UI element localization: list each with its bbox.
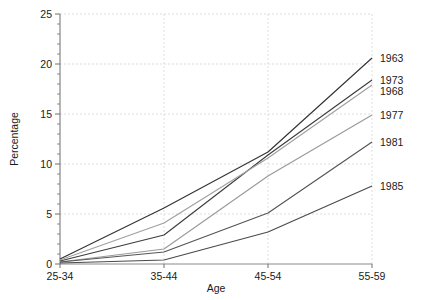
line-chart: 0510152025 Percentage 25-3435-4445-5455-… (0, 0, 429, 300)
y-tick-label: 15 (40, 108, 52, 120)
y-axis-tick-labels: 0510152025 (40, 8, 52, 270)
y-axis: 0510152025 Percentage (8, 8, 60, 270)
series-label-1985: 1985 (380, 180, 404, 192)
series-line-1977 (60, 115, 372, 262)
x-axis-ticks (60, 264, 372, 268)
x-tick-label: 45-54 (255, 270, 282, 282)
y-axis-major-ticks (55, 14, 60, 264)
x-axis-tick-labels: 25-3435-4445-5455-59 (47, 270, 386, 282)
x-tick-label: 35-44 (151, 270, 178, 282)
y-tick-label: 20 (40, 58, 52, 70)
series-label-1963: 1963 (380, 52, 404, 64)
x-tick-label: 55-59 (359, 270, 386, 282)
y-tick-label: 25 (40, 8, 52, 20)
series-label-1968: 1968 (380, 85, 404, 97)
y-axis-title: Percentage (8, 112, 20, 166)
series-line-1963 (60, 58, 372, 259)
x-axis: 25-3435-4445-5455-59 Age (47, 264, 386, 294)
x-tick-label: 25-34 (47, 270, 74, 282)
series-line-1968 (60, 85, 372, 260)
x-axis-title: Age (207, 282, 226, 294)
chart-canvas: 0510152025 Percentage 25-3435-4445-5455-… (0, 0, 429, 300)
series-line-1985 (60, 186, 372, 263)
series-label-1981: 1981 (380, 136, 404, 148)
y-tick-label: 0 (46, 258, 52, 270)
series-end-labels: 196319731968197719811985 (380, 52, 404, 192)
series-line-1981 (60, 142, 372, 262)
y-tick-label: 5 (46, 208, 52, 220)
y-tick-label: 10 (40, 158, 52, 170)
series-label-1977: 1977 (380, 109, 404, 121)
series-lines (60, 58, 372, 263)
series-line-1973 (60, 80, 372, 261)
